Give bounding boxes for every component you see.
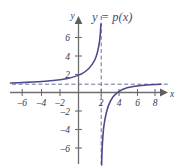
ytick-label-minus6: –6 — [60, 144, 71, 154]
curve-right-branch — [102, 84, 161, 165]
y-axis-arrowhead — [75, 16, 83, 24]
xtick-label-minus6: –6 — [16, 98, 27, 108]
x-axis-arrowhead — [160, 89, 168, 97]
plot-canvas: –6 –4 –2 2 4 6 8 6 4 2 –2 –4 –6 y x y = … — [0, 0, 178, 167]
ytick-label-minus4: –4 — [60, 125, 71, 135]
curve-label: y = p(x) — [90, 10, 132, 24]
y-axis-label: y — [69, 11, 75, 21]
xtick-label-minus4: –4 — [36, 98, 47, 108]
ytick-label-6: 6 — [65, 33, 70, 43]
curve-left-branch — [11, 24, 101, 83]
ytick-label-4: 4 — [65, 52, 70, 62]
ytick-label-minus2: –2 — [60, 107, 71, 117]
xtick-label-8: 8 — [153, 98, 158, 108]
xtick-label-4: 4 — [117, 98, 122, 108]
xtick-label-2: 2 — [99, 98, 104, 108]
function-graph-figure: –6 –4 –2 2 4 6 8 6 4 2 –2 –4 –6 y x y = … — [0, 0, 178, 167]
xtick-label-6: 6 — [135, 98, 140, 108]
x-axis-label: x — [169, 89, 175, 99]
